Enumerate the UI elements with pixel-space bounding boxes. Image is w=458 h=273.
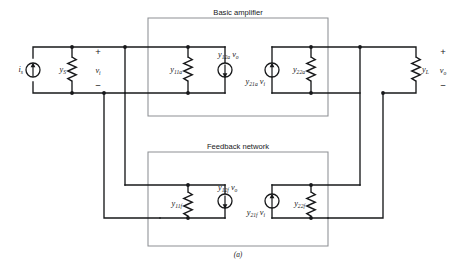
circuit-diagram-figure: Basic amplifier Feedback network is yS +… [0,0,458,273]
input-minus-sign: − [95,80,101,91]
basic-amplifier-title: Basic amplifier [213,8,263,17]
source-current-source [26,63,40,78]
figure-background [0,0,458,273]
input-plus-sign: + [95,46,101,57]
feedback-network-title: Feedback network [207,142,269,151]
output-plus-sign: + [440,46,446,57]
figure-caption: (a) [234,250,243,259]
output-minus-sign: − [440,80,446,91]
